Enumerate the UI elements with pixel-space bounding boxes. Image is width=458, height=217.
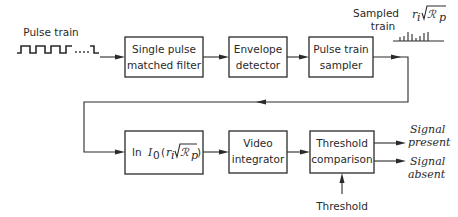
- pulse-train-label: Pulse train: [23, 26, 78, 38]
- video-integrator-block: Video integrator: [229, 131, 287, 173]
- matched-filter-block: Single pulse matched filter: [125, 37, 203, 77]
- svg-text:ln: ln: [132, 146, 142, 158]
- arrow-signal-absent: [374, 159, 406, 164]
- envelope-detector-label-2: detector: [236, 59, 281, 71]
- svg-text:): ): [197, 146, 201, 158]
- signal-present-label-1: Signal: [410, 123, 446, 136]
- sampler-label-1: Pulse train: [313, 43, 368, 55]
- log-bessel-block: ln I 0 ( r i ℛ p ): [125, 131, 203, 174]
- envelope-detector-label-1: Envelope: [234, 43, 282, 55]
- threshold-comparison-label-2: comparison: [311, 153, 372, 165]
- video-integrator-label-1: Video: [243, 137, 272, 149]
- arrow-input-to-matched-filter: [100, 55, 125, 60]
- matched-filter-label-1: Single pulse: [132, 43, 196, 55]
- threshold-comparison-label-1: Threshold: [315, 137, 368, 149]
- pulse-train-waveform: [17, 46, 99, 53]
- arrow-integrator-to-comparison: [287, 150, 310, 155]
- sampled-train-waveform: [393, 32, 444, 41]
- sampler-label-2: sampler: [320, 59, 363, 71]
- arrow-log-to-integrator: [203, 150, 229, 155]
- svg-text:p: p: [439, 11, 446, 24]
- pulse-train-sampler-block: Pulse train sampler: [309, 37, 373, 77]
- svg-text:i: i: [417, 11, 421, 24]
- video-integrator-label-2: integrator: [232, 153, 285, 165]
- sampled-train-annotation: r i ℛ p: [412, 6, 446, 24]
- signal-detection-block-diagram: Pulse train Single pulse matched filter …: [0, 0, 458, 217]
- svg-text:i: i: [171, 149, 175, 162]
- threshold-input-label: Threshold: [315, 200, 368, 212]
- arrow-signal-present: [374, 141, 406, 146]
- sampled-train-label-1: Sampled: [353, 7, 399, 19]
- threshold-comparison-block: Threshold comparison: [310, 131, 374, 173]
- svg-text:ℛ: ℛ: [180, 146, 190, 159]
- sampled-train-label-2: train: [371, 20, 395, 32]
- ellipsis-dots: [75, 51, 89, 53]
- envelope-detector-block: Envelope detector: [229, 37, 287, 77]
- arrow-matched-filter-to-envelope: [203, 55, 229, 60]
- threshold-input-arrow: [340, 173, 345, 194]
- svg-text:ℛ: ℛ: [427, 8, 437, 21]
- signal-present-label-2: present: [408, 136, 451, 149]
- matched-filter-label-2: matched filter: [127, 59, 202, 71]
- svg-text:0: 0: [153, 149, 160, 161]
- arrow-envelope-to-sampler: [287, 55, 309, 60]
- svg-text:(: (: [161, 146, 165, 158]
- signal-absent-label-2: absent: [408, 168, 446, 181]
- signal-absent-label-1: Signal: [410, 155, 446, 168]
